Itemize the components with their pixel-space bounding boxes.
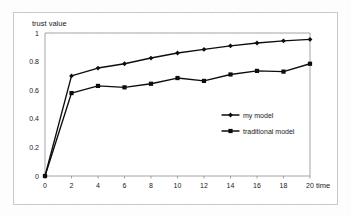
legend-label-0: my model bbox=[243, 112, 274, 120]
y-tick-label: 0.4 bbox=[29, 115, 39, 122]
data-point-marker bbox=[281, 70, 285, 74]
data-point-marker bbox=[175, 76, 179, 80]
x-tick-label: 2 bbox=[70, 182, 74, 189]
y-tick-label: 0.6 bbox=[29, 87, 39, 94]
y-tick-label: 0.8 bbox=[29, 58, 39, 65]
series-line-1 bbox=[45, 64, 310, 176]
x-tick-label: 4 bbox=[96, 182, 100, 189]
data-point-marker bbox=[149, 82, 153, 86]
chart-figure: trust value00.20.40.60.81024681012141618… bbox=[0, 0, 351, 216]
legend-label-1: traditional model bbox=[243, 128, 295, 135]
data-point-marker bbox=[202, 47, 207, 52]
data-point-marker bbox=[202, 79, 206, 83]
y-tick-label: 0.2 bbox=[29, 144, 39, 151]
x-tick-label: 16 bbox=[253, 182, 261, 189]
x-tick-label: 12 bbox=[200, 182, 208, 189]
data-point-marker bbox=[96, 66, 101, 71]
data-point-marker bbox=[175, 51, 180, 56]
data-point-marker bbox=[149, 56, 154, 61]
data-point-marker bbox=[43, 174, 47, 178]
data-point-marker bbox=[308, 37, 313, 42]
data-point-marker bbox=[228, 72, 232, 76]
legend-marker-0 bbox=[228, 113, 233, 118]
x-tick-label: 20 bbox=[306, 182, 314, 189]
y-tick-label: 0 bbox=[35, 173, 39, 180]
data-point-marker bbox=[122, 61, 127, 66]
data-point-marker bbox=[255, 69, 259, 73]
x-tick-label: 14 bbox=[227, 182, 235, 189]
data-point-marker bbox=[69, 74, 74, 79]
x-tick-label: 18 bbox=[280, 182, 288, 189]
x-tick-label: 6 bbox=[123, 182, 127, 189]
y-tick-label: 1 bbox=[35, 30, 39, 37]
y-axis-title: trust value bbox=[32, 19, 67, 28]
trust-value-line-chart: trust value00.20.40.60.81024681012141618… bbox=[0, 0, 351, 216]
legend-marker-1 bbox=[228, 129, 232, 133]
x-axis-title: time bbox=[316, 181, 330, 190]
data-point-marker bbox=[96, 84, 100, 88]
series-line-0 bbox=[45, 39, 310, 176]
data-point-marker bbox=[281, 38, 286, 43]
data-point-marker bbox=[122, 85, 126, 89]
data-point-marker bbox=[255, 41, 260, 46]
data-point-marker bbox=[69, 91, 73, 95]
x-tick-label: 8 bbox=[149, 182, 153, 189]
data-point-marker bbox=[228, 43, 233, 48]
data-point-marker bbox=[308, 62, 312, 66]
x-tick-label: 10 bbox=[174, 182, 182, 189]
x-tick-label: 0 bbox=[43, 182, 47, 189]
